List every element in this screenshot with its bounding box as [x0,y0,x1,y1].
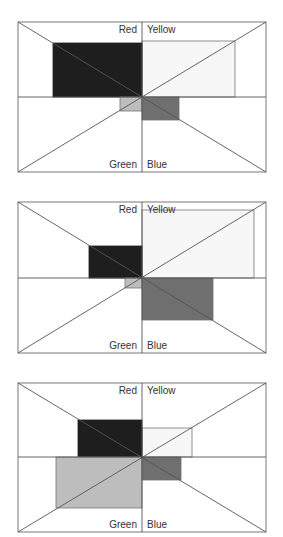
green-rect [56,457,142,508]
quadrant-diagram: RedYellowGreenBlueRedYellowGreenBlueRedY… [0,0,283,537]
panel-3: RedYellowGreenBlue [18,383,266,532]
panel-2: RedYellowGreenBlue [18,202,266,353]
label-yellow: Yellow [147,385,176,396]
label-red: Red [119,385,137,396]
red-rect [89,246,142,278]
label-green: Green [109,519,137,530]
label-blue: Blue [147,519,167,530]
label-blue: Blue [147,340,167,351]
label-green: Green [109,340,137,351]
yellow-rect [142,210,254,278]
blue-rect [142,457,181,480]
label-red: Red [119,24,137,35]
label-green: Green [109,159,137,170]
label-blue: Blue [147,159,167,170]
label-yellow: Yellow [147,204,176,215]
panel-1: RedYellowGreenBlue [18,22,266,172]
label-red: Red [119,204,137,215]
label-yellow: Yellow [147,24,176,35]
